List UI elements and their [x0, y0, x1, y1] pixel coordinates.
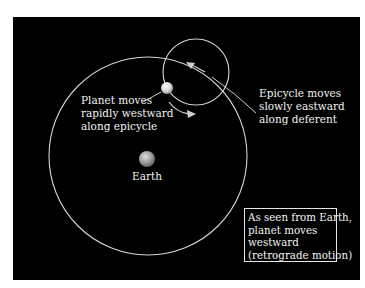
- epicycle-label: Epicycle moves slowly eastward along def…: [259, 87, 345, 125]
- earth-label: Earth: [132, 170, 162, 183]
- planet-icon: [161, 82, 173, 94]
- planet-label-line-1: Planet moves: [81, 94, 174, 107]
- retrograde-note-box: As seen from Earth, planet moves westwar…: [244, 208, 337, 262]
- planet-label-line-2: rapidly westward: [81, 107, 174, 120]
- note-line-3: westward: [248, 236, 336, 249]
- note-line-1: As seen from Earth,: [248, 211, 336, 224]
- epicycle-label-line-3: along deferent: [259, 113, 345, 126]
- epicycle-label-line-2: slowly eastward: [259, 100, 345, 113]
- planet-label: Planet moves rapidly westward along epic…: [81, 94, 174, 132]
- earth-icon: [139, 151, 155, 167]
- westward-arrowhead-icon: [187, 110, 196, 118]
- note-line-4: (retrograde motion): [248, 249, 336, 262]
- planet-label-line-3: along epicycle: [81, 120, 174, 133]
- note-line-2: planet moves: [248, 224, 336, 237]
- epicycle-label-line-1: Epicycle moves: [259, 87, 345, 100]
